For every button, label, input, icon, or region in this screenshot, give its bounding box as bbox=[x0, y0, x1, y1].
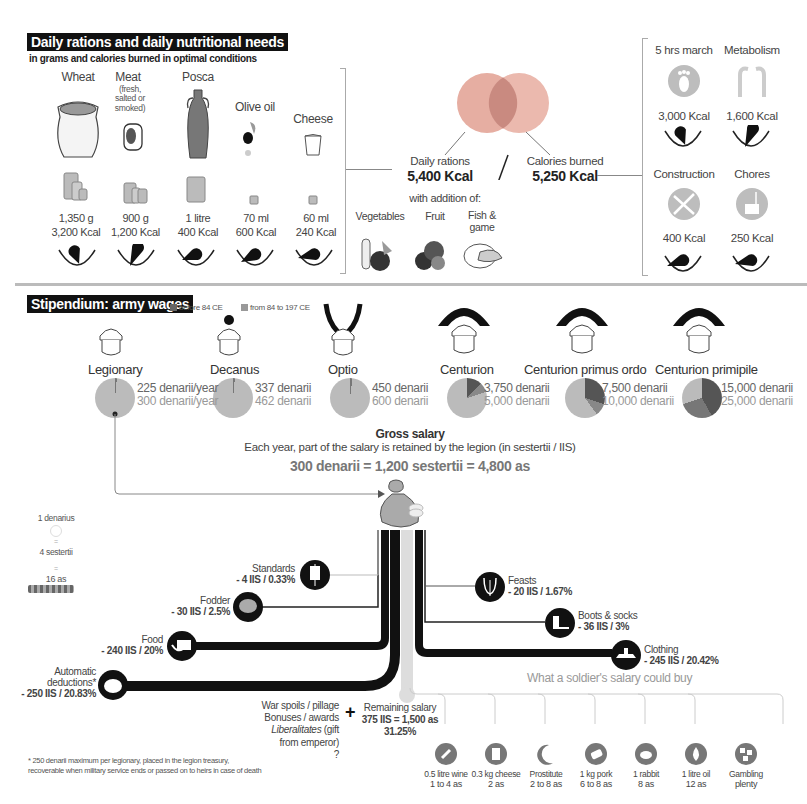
wine-icon bbox=[435, 743, 457, 765]
wage-pie-chart bbox=[682, 378, 722, 418]
item-amount: 70 ml600 Kcal bbox=[230, 212, 282, 240]
item-amount: 1,350 g3,200 Kcal bbox=[50, 212, 102, 240]
rank-centurion: Centurion bbox=[440, 362, 494, 377]
gauge-icon bbox=[731, 250, 771, 276]
wage-values: 7,500 denarii10,000 denarii bbox=[602, 382, 674, 407]
activity-name: Chores bbox=[720, 168, 784, 180]
olive-icon bbox=[240, 120, 260, 160]
rabbit-icon bbox=[635, 743, 657, 765]
activity-name: Metabolism bbox=[720, 44, 784, 56]
deduction-clothing: Clothing- 245 IIS / 20.42% bbox=[644, 644, 719, 666]
connector-line bbox=[346, 169, 392, 170]
wage-pie-chart bbox=[447, 378, 487, 418]
footnote: * 250 denarii maximum per legionary, pla… bbox=[28, 756, 261, 776]
rank-legionary: Legionary bbox=[88, 362, 142, 377]
food-icon bbox=[167, 631, 197, 661]
dice-icon bbox=[735, 743, 757, 765]
cheese-icon bbox=[302, 133, 324, 157]
fish-game-icon bbox=[460, 240, 506, 272]
activity-kcal: 1,600 Kcal bbox=[720, 110, 784, 122]
item-name-posca: Posca bbox=[178, 70, 218, 84]
gauge-icon bbox=[116, 244, 156, 270]
helmet-plain-icon bbox=[96, 322, 126, 358]
gauge-icon bbox=[663, 250, 703, 276]
rank-centurion-primus-ordo: Centurion primus ordo bbox=[524, 362, 646, 377]
fruit-icon bbox=[412, 235, 448, 273]
wage-values: 337 denarii462 denarii bbox=[255, 382, 311, 407]
addition-label: with addition of: bbox=[390, 192, 500, 204]
grain-sack-icon bbox=[52, 95, 104, 160]
item-name-cheese: Cheese bbox=[293, 112, 333, 126]
wage-values: 15,000 denarii25,000 denarii bbox=[721, 382, 793, 407]
pork-icon bbox=[585, 743, 607, 765]
weight-icon bbox=[308, 195, 318, 205]
rank-optio: Optio bbox=[328, 362, 358, 377]
weight-icon bbox=[62, 168, 92, 202]
purchases-connector bbox=[405, 680, 795, 730]
deduction-automatic: Automatic deductions*- 250 IIS / 20.83% bbox=[20, 666, 96, 699]
sandal-icon bbox=[545, 608, 575, 638]
piggy-bank-icon bbox=[98, 670, 128, 700]
bracket bbox=[642, 38, 648, 276]
legend-swatch-before bbox=[170, 304, 177, 311]
daily-rations-label: Daily rations bbox=[400, 155, 480, 167]
addition-vegetables: Vegetables bbox=[352, 210, 408, 222]
meat-icon bbox=[122, 122, 144, 152]
deduction-standards: Standards- 4 IIS / 0.33% bbox=[235, 563, 295, 585]
activity-kcal: 400 Kcal bbox=[652, 232, 716, 244]
bucket-icon bbox=[736, 188, 768, 220]
wage-values: 450 denarii600 denarii bbox=[372, 382, 428, 407]
addition-fruit: Fruit bbox=[415, 210, 455, 222]
tunic-icon bbox=[611, 640, 641, 670]
extra-income-list: War spoils / pillage Bonuses / awards Li… bbox=[240, 700, 339, 761]
helmet-transverse-crest-icon bbox=[671, 298, 727, 358]
cheese-icon bbox=[485, 743, 507, 765]
plus-icon: + bbox=[345, 702, 356, 723]
item-amount: 60 ml240 Kcal bbox=[290, 212, 342, 240]
helmet-transverse-crest-icon bbox=[554, 298, 610, 358]
addition-fish-game: Fish & game bbox=[462, 210, 502, 233]
gauge-icon bbox=[294, 244, 334, 270]
salary-connector bbox=[110, 410, 390, 500]
section-divider bbox=[15, 283, 807, 286]
wages-title: Stipendium: army wages bbox=[27, 295, 193, 313]
pickaxe-shovel-icon bbox=[668, 188, 700, 220]
fodder-icon bbox=[233, 592, 263, 622]
rank-centurion-primipile: Centurion primipile bbox=[655, 362, 758, 377]
rations-title: Daily rations and daily nutritional need… bbox=[27, 33, 288, 51]
wage-values: 3,750 denarii5,000 denarii bbox=[484, 382, 550, 407]
deduction-food: Food- 240 IIS / 20% bbox=[95, 634, 163, 656]
weight-icon bbox=[122, 180, 150, 204]
wage-pie-chart bbox=[565, 378, 605, 418]
gauge-icon bbox=[663, 125, 703, 151]
helmet-crest-icon bbox=[214, 312, 244, 358]
item-amount: 900 g1,200 Kcal bbox=[108, 212, 163, 240]
daily-rations-value: 5,400 Kcal bbox=[395, 168, 485, 184]
legend-swatch-after bbox=[241, 304, 248, 311]
weight-icon bbox=[249, 195, 259, 205]
deduction-feasts: StandardsFeasts- 20 IIS / 1.67% bbox=[508, 575, 572, 597]
item-amount: 1 litre400 Kcal bbox=[172, 212, 224, 240]
item-name-olive-oil: Olive oil bbox=[230, 100, 280, 114]
activity-kcal: 250 Kcal bbox=[720, 232, 784, 244]
activity-name: Construction bbox=[648, 168, 720, 180]
gauge-icon bbox=[731, 125, 771, 151]
activity-kcal: 3,000 Kcal bbox=[652, 110, 716, 122]
rank-decanus: Decanus bbox=[210, 362, 259, 377]
item-note-meat: (fresh, salted or smoked) bbox=[108, 85, 152, 113]
legend-label: before 84 CE bbox=[179, 303, 223, 312]
standard-icon bbox=[300, 560, 330, 590]
weight-icon bbox=[185, 173, 207, 203]
gauge-icon bbox=[235, 244, 275, 270]
connector-line bbox=[597, 175, 642, 176]
gauge-icon bbox=[176, 244, 216, 270]
calories-burned-label: Calories burned bbox=[520, 155, 610, 167]
body-icon bbox=[736, 65, 768, 97]
foot-icon bbox=[668, 65, 700, 97]
gauge-icon bbox=[57, 244, 97, 270]
purchase-item: Gamblingplenty bbox=[716, 769, 776, 789]
legend-label: from 84 to 197 CE bbox=[250, 303, 310, 312]
vegetables-icon bbox=[358, 235, 398, 273]
bracket bbox=[340, 68, 346, 274]
lyre-icon bbox=[475, 572, 505, 602]
